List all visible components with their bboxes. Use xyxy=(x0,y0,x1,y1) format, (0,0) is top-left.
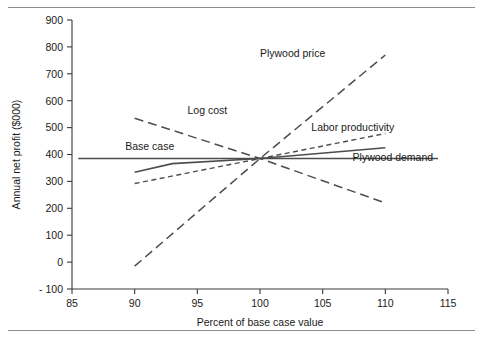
y-tick-label: 700 xyxy=(45,68,63,80)
x-tick-label: 105 xyxy=(314,297,332,309)
y-tick-label: 500 xyxy=(45,121,63,133)
series-label-plywood-price: Plywood price xyxy=(260,47,326,59)
x-tick-label: 90 xyxy=(129,297,141,309)
series-line-plywood-price xyxy=(135,55,386,266)
series-label-plywood-demand: Plywood demand xyxy=(353,151,434,163)
y-tick-label: 900 xyxy=(45,14,63,26)
y-tick-label: 300 xyxy=(45,175,63,187)
series-label-log-cost: Log cost xyxy=(188,104,228,116)
y-axis-title: Annual net profit ($000) xyxy=(10,100,22,210)
y-tick-label: 800 xyxy=(45,41,63,53)
chart-canvas: - 10001002003004005006007008009008590951… xyxy=(0,0,483,343)
y-tick-label: 100 xyxy=(45,229,63,241)
x-tick-label: 95 xyxy=(191,297,203,309)
x-tick-label: 115 xyxy=(440,297,457,309)
figure-container: - 10001002003004005006007008009008590951… xyxy=(0,0,483,343)
series-label-base-case: Base case xyxy=(125,140,174,152)
x-tick-label: 85 xyxy=(66,297,78,309)
x-axis-title: Percent of base case value xyxy=(197,316,324,328)
series-labels: Base caseLog costPlywood priceLabor prod… xyxy=(125,47,433,163)
series-label-labor-productivity: Labor productivity xyxy=(311,121,395,133)
x-tick-label: 110 xyxy=(377,297,394,309)
x-tick-label: 100 xyxy=(251,297,269,309)
y-tick-label: 200 xyxy=(45,202,63,214)
y-tick-label: - 100 xyxy=(39,283,63,295)
y-tick-label: 400 xyxy=(45,148,63,160)
y-tick-label: 0 xyxy=(57,256,63,268)
y-tick-label: 600 xyxy=(45,95,63,107)
